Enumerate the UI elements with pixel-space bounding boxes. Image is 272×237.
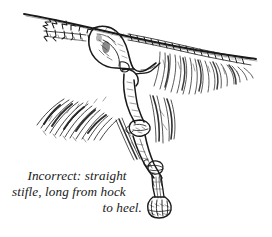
caption-line-2: stifle, long from hock xyxy=(12,184,142,200)
caption-block: Incorrect: straight stifle, long from ho… xyxy=(12,168,142,217)
caption-line-3: to heel. xyxy=(12,200,142,216)
caption-line-1: Incorrect: straight xyxy=(12,168,142,184)
illustration-page: Incorrect: straight stifle, long from ho… xyxy=(0,0,272,237)
